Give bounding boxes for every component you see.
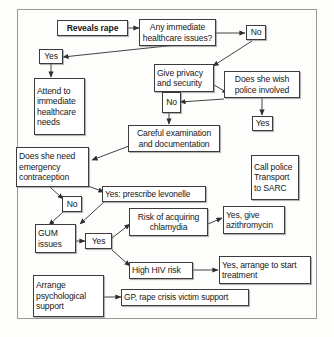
node-label: High HIV risk [132,265,190,276]
node-any-immediate-healthcare-issues[interactable]: Any immediate healthcare issues? [139,19,216,46]
node-does-she-wish-police-involved[interactable]: Does she wish police involved [224,71,300,98]
node-label: Yes [255,118,270,129]
node-label: No [249,27,263,38]
node-police-yes[interactable]: Yes [252,116,273,131]
node-contraception-no[interactable]: No [62,196,82,212]
node-label: Any immediate healthcare issues? [142,22,213,43]
node-label: Risk of acquiring chlamydia [132,212,205,233]
node-label: Call police Transport to SARC [254,162,296,194]
node-gp-rape-crisis-victim-support[interactable]: GP, rape crisis victim support [121,289,249,306]
node-label: Yes [88,236,109,247]
node-label: Yes, give azithromycin [226,210,282,231]
node-yes-prescribe-levonelle[interactable]: Yes: prescribe levonelle [102,186,206,202]
node-label: Does she wish police involved [227,74,297,95]
node-gum-yes[interactable]: Yes [85,233,112,249]
node-yes-arrange-to-start-treatment[interactable]: Yes, arrange to start treatment [219,256,311,284]
node-yes-immediate-issues[interactable]: Yes [39,49,63,64]
node-reveals-rape[interactable]: Reveals rape [57,20,128,36]
node-careful-examination-and-documentation[interactable]: Careful examination and documentation [128,125,220,152]
node-risk-of-acquiring-chlamydia[interactable]: Risk of acquiring chlamydia [129,208,208,236]
node-give-privacy-and-security[interactable]: Give privacy and security [154,64,214,92]
node-arrange-psychological-support[interactable]: Arrange psychological support [33,275,104,317]
node-label: Give privacy and security [157,68,211,89]
node-label: No [165,97,178,108]
node-label: Careful examination and documentation [131,128,217,149]
flowchart-canvas: Reveals rape Any immediate healthcare is… [0,0,334,337]
node-label: Attend to immediate healthcare needs [37,86,82,128]
node-no-immediate-issues[interactable]: No [246,25,266,40]
node-label: No [65,199,79,210]
node-label: Does she need emergency contraception [19,151,86,183]
node-label: Reveals rape [60,23,125,34]
node-label: Yes, arrange to start treatment [222,260,308,281]
node-label: Yes [42,51,60,62]
node-label: Arrange psychological support [36,280,101,312]
node-call-police-transport-to-sarc[interactable]: Call police Transport to SARC [251,155,299,200]
node-label: GUM issues [38,228,73,249]
node-label: GP, rape crisis victim support [124,292,246,303]
node-yes-give-azithromycin[interactable]: Yes, give azithromycin [223,206,285,234]
node-label: Yes: prescribe levonelle [105,189,203,200]
node-high-hiv-risk[interactable]: High HIV risk [129,262,193,279]
node-attend-to-immediate-healthcare-needs[interactable]: Attend to immediate healthcare needs [34,78,85,135]
node-police-no[interactable]: No [162,92,181,113]
node-does-she-need-emergency-contraception[interactable]: Does she need emergency contraception [16,147,89,187]
node-gum-issues[interactable]: GUM issues [35,224,76,253]
